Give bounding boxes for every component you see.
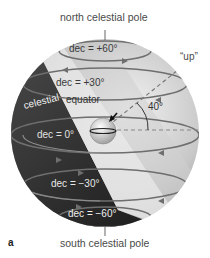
south-celestial-pole-label: south celestial pole (60, 237, 149, 249)
angle-label: 40° (148, 101, 163, 112)
dec-minus60-label: dec = −60° (68, 208, 116, 219)
dec-plus30-label: dec = +30° (56, 77, 104, 88)
north-celestial-pole-label: north celestial pole (60, 11, 148, 23)
panel-label: a (8, 237, 14, 248)
up-label: “up” (180, 51, 198, 62)
dec-minus30-label: dec = −30° (51, 178, 99, 189)
celestial-sphere-diagram (0, 0, 210, 258)
dec-plus60-label: dec = +60° (69, 43, 117, 54)
earth (90, 118, 116, 144)
celestial-equator-label-2: equator (66, 94, 100, 105)
dec-0-label: dec = 0° (37, 129, 74, 140)
